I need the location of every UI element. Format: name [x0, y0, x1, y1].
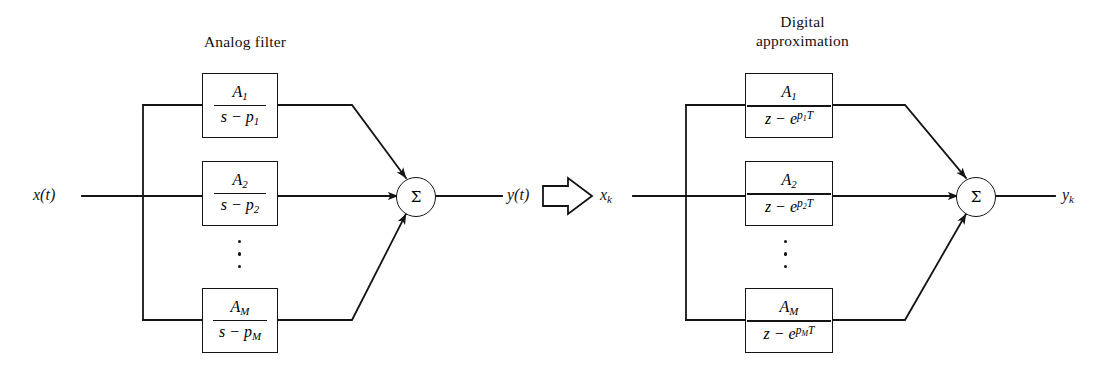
numerator: A2 — [775, 172, 802, 193]
transfer-function-fraction: AM z − epMT — [747, 299, 831, 342]
analog-branch-box-m: AM s − pM — [202, 288, 278, 353]
transfer-function-fraction: A1 s − p1 — [214, 84, 266, 127]
analog-branch-ellipsis — [238, 240, 241, 268]
analog-output-label: y(t) — [507, 186, 529, 204]
transfer-function-fraction: A2 s − p2 — [214, 172, 266, 215]
denominator: z − ep2T — [747, 195, 831, 215]
figure-canvas: Analog filter Digital approximation A1 s… — [0, 0, 1106, 371]
digital-branch-ellipsis — [784, 240, 787, 268]
numerator: AM — [774, 299, 805, 320]
digital-branch-box-m: AM z − epMT — [745, 288, 833, 353]
analog-section-caption: Analog filter — [165, 32, 325, 51]
digital-section-caption: Digital approximation — [720, 12, 885, 50]
numerator: AM — [225, 299, 256, 320]
numerator: A1 — [775, 84, 802, 105]
analog-branch-box-1: A1 s − p1 — [202, 73, 278, 138]
digital-summing-junction: Σ — [956, 177, 996, 217]
wiring-layer — [0, 0, 1106, 371]
denominator: s − p2 — [215, 194, 265, 215]
denominator: s − pM — [213, 321, 267, 342]
denominator: s − p1 — [215, 106, 265, 127]
digital-output-label: yk — [1062, 186, 1074, 205]
denominator: z − ep1T — [747, 107, 831, 127]
analog-summing-junction: Σ — [396, 177, 436, 217]
digital-branch-box-1: A1 z − ep1T — [745, 73, 833, 138]
transfer-function-fraction: A1 z − ep1T — [747, 84, 831, 127]
sigma-icon: Σ — [971, 188, 982, 206]
transfer-function-fraction: AM s − pM — [213, 299, 267, 342]
digital-input-label: xk — [600, 186, 612, 205]
numerator: A1 — [226, 84, 253, 105]
denominator: z − epMT — [747, 322, 831, 342]
numerator: A2 — [226, 172, 253, 193]
analog-branch-box-2: A2 s − p2 — [202, 161, 278, 226]
digital-branch-box-2: A2 z − ep2T — [745, 161, 833, 226]
transfer-function-fraction: A2 z − ep2T — [747, 172, 831, 215]
analog-input-label: x(t) — [33, 186, 55, 204]
sigma-icon: Σ — [411, 188, 422, 206]
